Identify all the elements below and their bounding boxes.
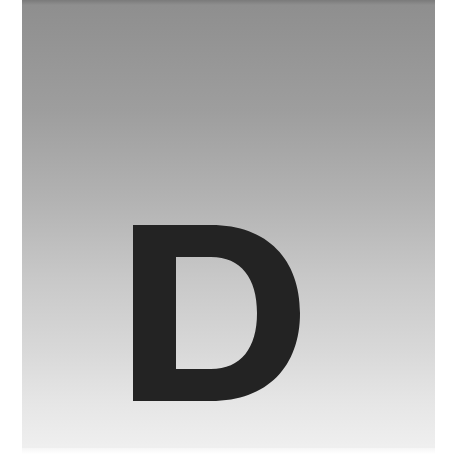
page: D bbox=[0, 0, 459, 463]
chapter-letter: D bbox=[133, 225, 300, 401]
letter-d-glyph bbox=[133, 225, 300, 401]
